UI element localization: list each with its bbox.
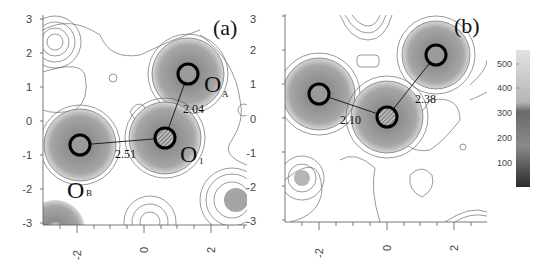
x-tick: -2 bbox=[313, 248, 325, 258]
y-tick: 1 bbox=[26, 81, 32, 93]
atom-subscript: A bbox=[222, 89, 229, 99]
y-tick: 0 bbox=[250, 113, 256, 125]
panel-label-a: (a) bbox=[213, 15, 237, 40]
y-tick: -3 bbox=[246, 215, 256, 227]
atom-oa bbox=[178, 64, 198, 84]
bond-length-label: 2.51 bbox=[115, 147, 136, 161]
panel-label-b: (b) bbox=[454, 13, 480, 38]
y-tick: -3 bbox=[22, 217, 32, 229]
y-tick: -1 bbox=[22, 149, 32, 161]
y-tick: -1 bbox=[246, 147, 256, 159]
y-tick: 2 bbox=[26, 47, 32, 59]
atom-o1 bbox=[155, 128, 175, 148]
atom-label-o1: O bbox=[180, 141, 197, 167]
x-tick: 0 bbox=[138, 247, 150, 253]
figure: 3 2 1 0 -1 -2 -3 -2 0 2 (a) 2.04 2.51 O … bbox=[0, 0, 537, 270]
x-tick: 2 bbox=[205, 247, 217, 253]
y-tick: 2 bbox=[250, 44, 256, 56]
x-tick: -2 bbox=[71, 250, 83, 260]
colorbar-tick: 400 bbox=[497, 83, 512, 93]
atom-subscript: 1 bbox=[199, 156, 204, 166]
colorbar-gradient bbox=[516, 50, 530, 187]
atom-ob bbox=[70, 135, 90, 155]
x-tick: 0 bbox=[381, 245, 393, 251]
atom-top bbox=[426, 45, 446, 65]
atom-subscript: B bbox=[86, 188, 92, 198]
colorbar-tick: 200 bbox=[497, 133, 512, 143]
y-tick: 1 bbox=[250, 78, 256, 90]
colorbar-tick: 300 bbox=[497, 108, 512, 118]
y-tick: -2 bbox=[22, 183, 32, 195]
bond-length-label: 2.10 bbox=[340, 113, 361, 127]
atom-label-ob: O bbox=[67, 177, 84, 203]
x-tick: 2 bbox=[448, 245, 460, 251]
atom-left bbox=[309, 84, 329, 104]
bond-length-label: 2.04 bbox=[183, 102, 204, 116]
panel-a: 3 2 1 0 -1 -2 -3 -2 0 2 (a) 2.04 2.51 O … bbox=[0, 0, 290, 270]
atom-label-oa: O bbox=[204, 71, 221, 97]
y-tick: 3 bbox=[250, 13, 256, 25]
y-tick: -2 bbox=[246, 181, 256, 193]
atom-center bbox=[377, 107, 397, 127]
bond-length-label: 2.38 bbox=[415, 92, 436, 106]
y-tick: 0 bbox=[26, 115, 32, 127]
colorbar-tick: 500 bbox=[497, 59, 512, 69]
colorbar-tick: 100 bbox=[497, 158, 512, 168]
y-tick: 3 bbox=[26, 13, 32, 25]
